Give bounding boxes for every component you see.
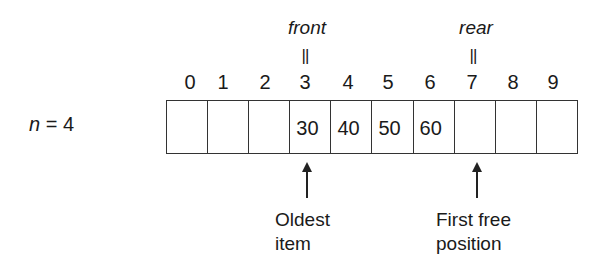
index-label: 0 <box>184 72 195 92</box>
array-cell <box>167 101 208 153</box>
index-label: 3 <box>299 72 310 92</box>
index-label: 7 <box>466 72 477 92</box>
count-value: 4 <box>63 113 74 135</box>
count-equals: = <box>40 113 63 135</box>
index-label: 8 <box>507 72 518 92</box>
front-caption-line: item <box>275 232 330 256</box>
array-cell-front: 30 <box>290 101 331 153</box>
rear-pointer-label: rear <box>459 18 493 38</box>
array-cell: 40 <box>331 101 372 153</box>
front-equals-mark: || <box>302 48 309 64</box>
index-label: 9 <box>547 72 558 92</box>
index-label: 6 <box>424 72 435 92</box>
array-cell: 50 <box>372 101 413 153</box>
array-cell-rear <box>455 101 496 153</box>
front-caption-line: Oldest <box>275 208 330 232</box>
front-pointer-label: front <box>288 18 326 38</box>
circular-array: 30 40 50 60 <box>166 100 578 154</box>
index-label: 4 <box>342 72 353 92</box>
rear-caption-line: First free <box>436 208 511 232</box>
array-cell <box>249 101 290 153</box>
array-cell <box>208 101 249 153</box>
arrow-shaft <box>476 170 478 198</box>
array-cell <box>496 101 537 153</box>
array-cell: 60 <box>414 101 455 153</box>
array-cell <box>537 101 577 153</box>
rear-caption-line: position <box>436 232 511 256</box>
item-count-label: n = 4 <box>29 113 74 135</box>
arrow-shaft <box>306 170 308 198</box>
rear-equals-mark: || <box>470 48 477 64</box>
front-caption: Oldest item <box>275 208 330 256</box>
index-label: 5 <box>382 72 393 92</box>
index-label: 1 <box>217 72 228 92</box>
rear-caption: First free position <box>436 208 511 256</box>
count-variable: n <box>29 113 40 135</box>
index-label: 2 <box>259 72 270 92</box>
